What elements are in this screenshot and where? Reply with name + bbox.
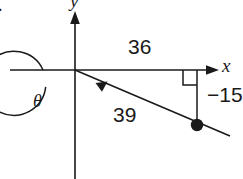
adjacent-leg-label: 36 <box>128 36 151 57</box>
hypotenuse-label: 39 <box>113 104 136 125</box>
terminal-point-dot <box>191 119 203 131</box>
x-axis-arrowhead <box>206 65 219 75</box>
x-axis-label: x <box>222 56 230 75</box>
y-axis-label: y <box>70 0 78 10</box>
right-angle-marker <box>183 70 197 85</box>
opposite-leg-label: −15 <box>207 84 243 105</box>
theta-label: θ <box>33 92 42 110</box>
problem-number-marker: . <box>0 0 2 13</box>
trig-diagram: . 36 39 −15 x y θ <box>0 0 243 179</box>
y-axis-arrowhead <box>70 11 80 24</box>
